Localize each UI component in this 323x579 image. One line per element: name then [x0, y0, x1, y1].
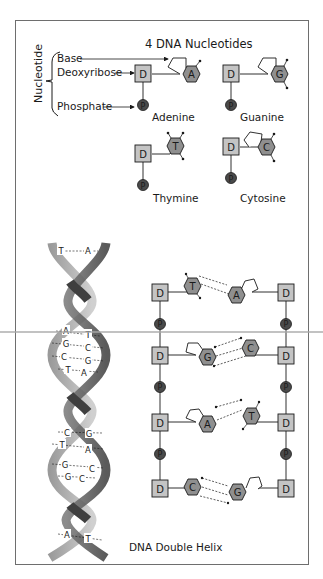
nucleotide-name: Guanine	[240, 111, 284, 123]
svg-text:G: G	[86, 429, 93, 439]
section-title: 4 DNA Nucleotides	[145, 37, 253, 51]
svg-text:P: P	[141, 102, 146, 111]
svg-text:P: P	[229, 175, 234, 184]
svg-text:D: D	[139, 69, 147, 80]
base-letter: A	[188, 69, 195, 80]
svg-text:P: P	[141, 182, 146, 191]
svg-text:A: A	[85, 246, 91, 256]
svg-text:P: P	[284, 383, 289, 392]
nucleotide-adenine: D A P Adenine	[135, 58, 201, 123]
svg-text:D: D	[282, 288, 290, 299]
svg-text:T: T	[57, 246, 64, 256]
svg-text:T: T	[84, 534, 91, 544]
svg-text:T: T	[64, 365, 71, 375]
svg-text:T: T	[247, 411, 255, 422]
svg-text:A: A	[233, 290, 240, 301]
svg-text:G: G	[85, 356, 92, 366]
double-helix: T A A T G C C G	[50, 243, 106, 558]
ladder-rung: A T	[168, 399, 278, 432]
svg-text:G: G	[63, 339, 70, 349]
legend-phosphate-label: Phosphate	[57, 100, 112, 112]
svg-text:A: A	[204, 419, 211, 430]
svg-text:D: D	[282, 418, 290, 429]
ladder-rung: C G	[168, 477, 278, 504]
svg-text:P: P	[158, 383, 163, 392]
svg-text:D: D	[156, 288, 164, 299]
legend-deoxyribose-label: Deoxyribose	[57, 66, 122, 78]
helix-caption: DNA Double Helix	[129, 541, 222, 553]
dna-ladder: T A G C A	[152, 273, 294, 504]
svg-text:A: A	[85, 445, 91, 455]
svg-text:C: C	[64, 428, 70, 438]
svg-text:D: D	[227, 142, 235, 153]
svg-text:D: D	[139, 149, 147, 160]
nucleotide-guanine: D G P Guanine	[223, 58, 288, 123]
svg-text:A: A	[81, 368, 87, 378]
ladder-rung: T A	[168, 273, 278, 303]
legend-base-label: Base	[57, 52, 83, 64]
svg-text:T: T	[188, 281, 196, 292]
svg-text:P: P	[158, 450, 163, 459]
svg-text:A: A	[64, 530, 70, 540]
svg-text:G: G	[204, 352, 212, 363]
svg-text:C: C	[61, 352, 67, 362]
svg-text:P: P	[284, 450, 289, 459]
svg-text:C: C	[189, 482, 196, 493]
svg-text:G: G	[65, 472, 72, 482]
svg-text:C: C	[79, 474, 85, 484]
base-letter: G	[276, 69, 284, 80]
svg-text:G: G	[62, 460, 69, 470]
svg-text:T: T	[58, 440, 65, 450]
svg-text:C: C	[85, 343, 91, 353]
nucleotide-group-label: Nucleotide	[32, 44, 45, 103]
nucleotide-cytosine: D C P Cytosine	[223, 132, 286, 204]
svg-text:P: P	[158, 320, 163, 329]
ladder-phosphates: P P P P P P	[155, 319, 292, 460]
svg-text:D: D	[156, 484, 164, 495]
base-letter: T	[171, 141, 179, 152]
svg-text:D: D	[156, 418, 164, 429]
svg-text:D: D	[282, 351, 290, 362]
svg-text:C: C	[89, 464, 95, 474]
ladder-sugars: D D D D D D D D	[152, 284, 294, 497]
base-letter: C	[263, 142, 270, 153]
helix-base-pair: T A	[57, 245, 98, 256]
nucleotide-name: Adenine	[152, 111, 195, 123]
dna-diagram: 4 DNA Nucleotides Nucleotide Base Deoxyr…	[0, 0, 323, 579]
svg-text:P: P	[229, 102, 234, 111]
helix-base-pair: C G	[52, 351, 104, 366]
nucleotide-name: Thymine	[152, 192, 199, 204]
nucleotide-name: Cytosine	[240, 192, 286, 204]
svg-text:P: P	[284, 320, 289, 329]
scan-artifact-line	[0, 331, 323, 333]
svg-text:D: D	[227, 69, 235, 80]
pentagon-ring-icon	[168, 58, 186, 74]
svg-text:C: C	[247, 343, 254, 354]
helix-base-pair: G C	[52, 459, 104, 474]
ladder-rung: G C	[168, 337, 278, 367]
svg-text:D: D	[156, 351, 164, 362]
svg-text:G: G	[234, 487, 242, 498]
svg-text:D: D	[282, 484, 290, 495]
nucleotide-thymine: D T P Thymine	[135, 132, 199, 204]
